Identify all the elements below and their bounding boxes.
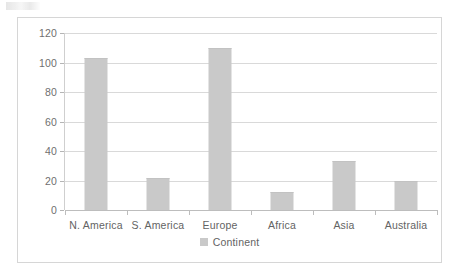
- y-tick-label-40: 40: [45, 145, 57, 157]
- y-tick-label-100: 100: [39, 57, 57, 69]
- category-tick: [127, 210, 128, 215]
- y-tick-mark-0: [60, 210, 64, 211]
- y-tick-mark-20: [60, 181, 64, 182]
- bar-slot: [189, 33, 251, 210]
- category-tick: [251, 210, 252, 215]
- bar-europe[interactable]: [209, 48, 232, 210]
- y-tick-label-0: 0: [51, 204, 57, 216]
- bar-slot: [313, 33, 375, 210]
- legend-swatch-continent: [200, 238, 208, 246]
- y-tick-mark-40: [60, 151, 64, 152]
- chart-frame: 020406080100120 N. AmericaS. AmericaEuro…: [17, 17, 442, 263]
- bar-slot: [127, 33, 189, 210]
- bar-slot: [65, 33, 127, 210]
- category-tick: [65, 210, 66, 215]
- bar-s-america[interactable]: [147, 178, 170, 210]
- category-tick: [437, 210, 438, 215]
- category-label-n-america: N. America: [69, 219, 122, 231]
- y-tick-label-80: 80: [45, 86, 57, 98]
- bar-slot: [251, 33, 313, 210]
- y-tick-mark-100: [60, 63, 64, 64]
- y-tick-mark-120: [60, 33, 64, 34]
- category-tick: [313, 210, 314, 215]
- bar-n-america[interactable]: [85, 58, 108, 210]
- bars-layer: [65, 33, 437, 210]
- y-tick-mark-80: [60, 92, 64, 93]
- legend-label-continent: Continent: [213, 236, 260, 248]
- y-tick-label-20: 20: [45, 175, 57, 187]
- category-label-europe: Europe: [202, 219, 237, 231]
- category-label-africa: Africa: [268, 219, 296, 231]
- chart-legend: Continent: [18, 236, 441, 248]
- scan-artifact: [6, 2, 40, 10]
- category-tick: [375, 210, 376, 215]
- plot-area: 020406080100120: [65, 33, 437, 210]
- y-tick-label-120: 120: [39, 27, 57, 39]
- bar-asia[interactable]: [333, 161, 356, 210]
- category-label-asia: Asia: [333, 219, 354, 231]
- category-label-australia: Australia: [385, 219, 428, 231]
- category-label-s-america: S. America: [132, 219, 185, 231]
- category-tick: [189, 210, 190, 215]
- bar-slot: [375, 33, 437, 210]
- bar-africa[interactable]: [271, 192, 294, 210]
- bar-australia[interactable]: [395, 181, 418, 211]
- y-tick-mark-60: [60, 122, 64, 123]
- y-tick-label-60: 60: [45, 116, 57, 128]
